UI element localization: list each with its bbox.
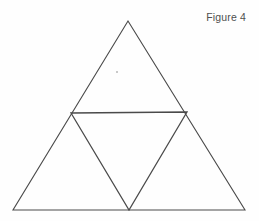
outer-triangle [13,21,245,210]
scan-speck-artifact [116,71,118,73]
figure-label: Figure 4 [206,11,246,24]
figure-container: Figure 4 [0,0,259,221]
shape-layer [13,21,245,210]
triangle-diagram [0,0,259,221]
inner-inverted-triangle [71,112,187,210]
